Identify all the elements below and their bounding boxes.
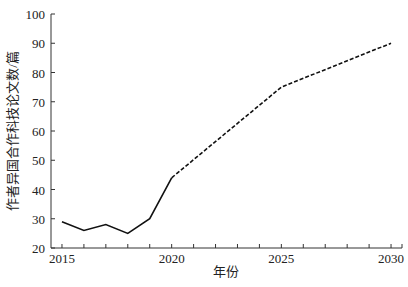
x-tick-label: 2015 xyxy=(49,251,75,266)
y-tick-label: 20 xyxy=(32,241,45,256)
y-tick-label: 50 xyxy=(32,153,45,168)
y-tick-label: 70 xyxy=(32,95,45,110)
x-tick-label: 2030 xyxy=(378,251,404,266)
y-tick-label: 60 xyxy=(32,124,45,139)
axes: 20304050607080901002015202020252030 xyxy=(26,7,405,266)
forecast-line xyxy=(172,43,391,178)
y-tick-label: 80 xyxy=(32,66,45,81)
y-tick-label: 30 xyxy=(32,212,45,227)
y-tick-label: 100 xyxy=(26,7,46,22)
actual-line xyxy=(62,178,172,234)
data-lines xyxy=(62,43,391,233)
x-axis-label: 年份 xyxy=(213,264,239,279)
x-tick-label: 2020 xyxy=(159,251,185,266)
x-tick-label: 2025 xyxy=(268,251,294,266)
line-chart: 20304050607080901002015202020252030 年份 作… xyxy=(0,0,408,287)
y-tick-label: 40 xyxy=(32,183,45,198)
y-axis-label: 作者异国合作科技论文数/篇 xyxy=(5,51,20,211)
y-tick-label: 90 xyxy=(32,36,45,51)
